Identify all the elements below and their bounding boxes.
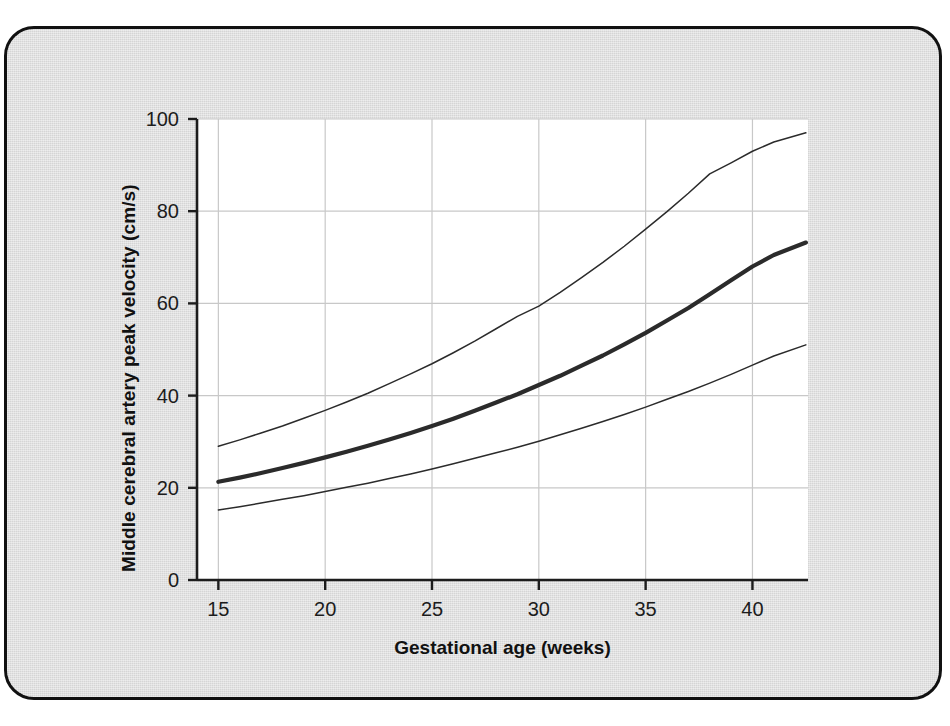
y-tick-label: 60 xyxy=(0,292,179,315)
y-axis-label: Middle cerebral artery peak velocity (cm… xyxy=(118,184,140,572)
y-tick-label: 80 xyxy=(0,200,179,223)
curve-series-2 xyxy=(218,345,806,510)
y-tick-label: 40 xyxy=(0,384,179,407)
x-tick-label: 40 xyxy=(741,598,763,621)
x-tick-label: 15 xyxy=(207,598,229,621)
x-tick-label: 20 xyxy=(314,598,336,621)
x-tick-label: 30 xyxy=(528,598,550,621)
x-tick-label: 35 xyxy=(635,598,657,621)
x-tick-label: 25 xyxy=(421,598,443,621)
chart-figure: 020406080100152025303540 Middle cerebral… xyxy=(0,0,950,726)
y-tick-label: 20 xyxy=(0,476,179,499)
y-tick-label: 100 xyxy=(0,108,179,131)
chart-page: 020406080100152025303540 Middle cerebral… xyxy=(0,0,950,726)
x-axis-label: Gestational age (weeks) xyxy=(197,637,808,659)
y-tick-label: 0 xyxy=(0,569,179,592)
curve-series-1 xyxy=(218,243,806,482)
